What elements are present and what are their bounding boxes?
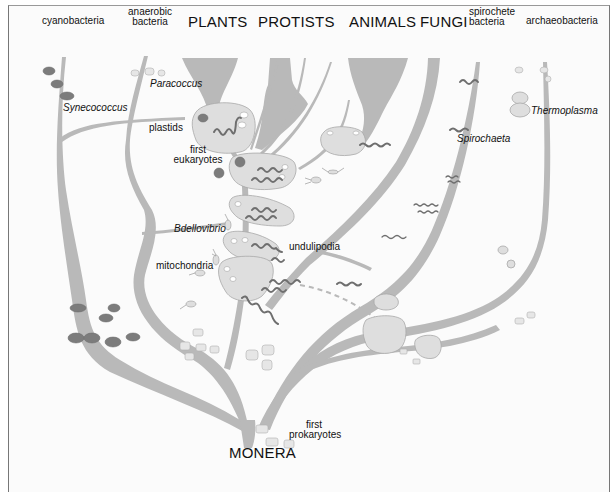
medium-prokaryote-cell [415,335,441,358]
protists-branch [255,58,308,150]
label-first-prokaryotes-line2: prokaryotes [289,430,339,440]
label-spirochete-bacteria: spirochete bacteria [469,7,515,27]
label-first-prokaryotes: first prokaryotes [289,420,339,440]
label-spirochaeta: Spirochaeta [457,134,510,144]
label-anaerobic-bacteria: anaerobic bacteria [125,7,175,27]
label-archaeobacteria: archaeobacteria [526,16,598,26]
thermoplasma-cell-2 [510,103,530,117]
label-spirochete-line2: bacteria [469,17,515,27]
label-synecococcus: Synecococcus [63,103,127,113]
thermoplasma-cell-1 [512,92,528,104]
undulipodia-line [316,250,372,271]
mitochondria-host-cell [219,256,274,301]
label-first-eukaryotes-line2: eukaryotes [170,155,226,165]
kingdom-label-protists: PROTISTS [258,14,335,29]
label-mitochondria: mitochondria [156,261,213,271]
label-undulipodia: undulipodia [289,242,340,252]
label-plastids: plastids [149,123,183,133]
kingdom-label-animals: ANIMALS [349,14,416,29]
large-prokaryote-cell [363,316,406,354]
animal-cell [321,127,366,156]
small-blob-cell [374,294,398,310]
label-cyanobacteria: cyanobacteria [42,16,104,26]
label-anaerobic-line2: bacteria [125,17,175,27]
kingdom-label-fungi: FUNGI [420,14,468,29]
free-cyanobacterium [214,168,224,178]
label-first-eukaryotes: first eukaryotes [170,145,226,165]
label-paracoccus: Paracoccus [150,79,202,89]
eukaryote-cell-2 [229,195,294,226]
kingdom-label-monera: MONERA [229,445,296,460]
label-thermoplasma: Thermoplasma [531,106,598,116]
label-bdellovibrio: Bdellovibrio [174,224,226,234]
kingdom-label-plants: PLANTS [188,14,248,29]
